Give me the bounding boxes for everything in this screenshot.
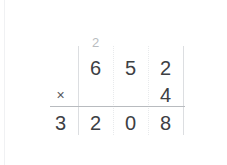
carry-cell-hundreds: 2 <box>78 36 113 49</box>
answer-separator-rule <box>50 106 185 107</box>
product-digit-thousands: 3 <box>43 113 78 133</box>
product-digit-ones: 8 <box>148 113 183 133</box>
page-edge-rule <box>4 0 5 165</box>
multiplicand-digit-tens: 5 <box>113 58 148 78</box>
product-digit-hundreds: 2 <box>78 113 113 133</box>
multiplicand-digit-ones: 2 <box>148 58 183 78</box>
product-digit-tens: 0 <box>113 113 148 133</box>
multiplicand-digit-hundreds: 6 <box>78 58 113 78</box>
multiplication-operator: × <box>43 88 78 102</box>
multiplier-digit-ones: 4 <box>148 85 183 105</box>
column-rule-ones-right <box>183 46 184 135</box>
long-multiplication-worksheet: 2 6 5 2 × 4 3 2 0 8 <box>0 0 227 165</box>
